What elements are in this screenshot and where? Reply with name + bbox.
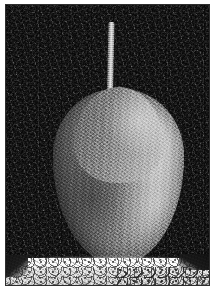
stone-shadow-left-corner [6, 255, 28, 277]
pear-stem [107, 22, 114, 92]
image-figure [0, 0, 215, 290]
stone-shadow-right-corner [179, 254, 209, 270]
image-frame [5, 4, 210, 286]
pear [6, 5, 209, 285]
photo-canvas [6, 5, 209, 285]
